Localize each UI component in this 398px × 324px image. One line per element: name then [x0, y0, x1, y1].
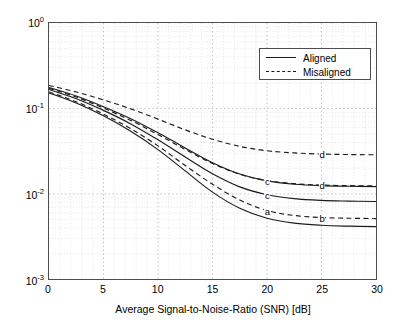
legend-line-dashed-icon [264, 67, 298, 77]
curve-tag-a: a [264, 206, 270, 215]
curve-tag-c: c [264, 176, 270, 185]
x-tick-label-10: 10 [152, 283, 164, 295]
x-tick-label-5: 5 [100, 283, 106, 295]
x-tick-label-0: 0 [45, 283, 51, 295]
x-tick-label-30: 30 [371, 283, 383, 295]
y-axis-label: Average Bit Error Rate (BER) [0, 0, 18, 324]
y-tick-label-1e-3: 10-3 [26, 273, 44, 287]
legend: Aligned Misaligned [259, 48, 371, 80]
legend-entry-misaligned: Misaligned [260, 65, 370, 79]
curve-tag-d: d [319, 149, 325, 158]
x-tick-label-25: 25 [316, 283, 328, 295]
x-axis-label: Average Signal-to-Noise-Ratio (SNR) [dB] [48, 303, 378, 315]
curve-tag-d: d [319, 181, 325, 190]
x-tick-label-20: 20 [261, 283, 273, 295]
curve-c-aligned-upper [49, 87, 376, 186]
curve-tag-c: c [264, 190, 270, 199]
legend-label-misaligned: Misaligned [303, 67, 351, 78]
legend-label-aligned: Aligned [303, 53, 336, 64]
x-tick-label-15: 15 [207, 283, 219, 295]
y-tick-label-1e-2: 10-2 [26, 187, 44, 201]
y-tick-label-1e0: 100 [28, 15, 44, 29]
legend-entry-aligned: Aligned [260, 51, 370, 65]
y-tick-label-1e-1: 10-1 [26, 101, 44, 115]
legend-line-solid-icon [264, 53, 298, 63]
curve-tag-b: b [319, 213, 325, 222]
ber-vs-snr-chart: Average Bit Error Rate (BER) 10-310-210-… [0, 0, 398, 324]
